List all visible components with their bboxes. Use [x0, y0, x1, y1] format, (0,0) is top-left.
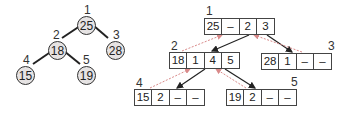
record-index-label: 1 [206, 5, 213, 17]
tree-representation-diagram: 1 25 2 18 3 28 4 15 5 19 1 [0, 0, 347, 114]
record-index-label: 3 [328, 40, 335, 52]
record-value-cell: 25 [205, 19, 222, 34]
record-value-cell: 15 [135, 90, 152, 105]
record-node-2: 18 1 4 5 [169, 52, 240, 69]
record-index-label: 2 [171, 40, 178, 52]
record-left-cell: 2 [240, 19, 257, 34]
record-right-cell: 5 [222, 53, 239, 68]
record-value-cell: 19 [227, 90, 244, 105]
record-left-cell: – [297, 54, 314, 69]
record-index-label: 4 [136, 77, 143, 89]
record-value-cell: 18 [170, 53, 187, 68]
record-parent-cell: – [222, 19, 239, 34]
record-right-cell: – [187, 90, 204, 105]
record-parent-cell: 2 [244, 90, 261, 105]
record-node-5: 19 2 – – [226, 89, 297, 106]
record-parent-cell: 1 [187, 53, 204, 68]
record-left-cell: – [262, 90, 279, 105]
record-right-cell: – [314, 54, 331, 69]
record-node-3: 28 1 – – [261, 53, 332, 70]
record-index-label: 5 [291, 76, 298, 88]
record-right-cell: – [279, 90, 296, 105]
record-left-cell: – [170, 90, 187, 105]
record-parent-cell: 2 [152, 90, 169, 105]
record-parent-cell: 1 [279, 54, 296, 69]
record-node-4: 15 2 – – [134, 89, 205, 106]
record-left-cell: 4 [205, 53, 222, 68]
record-node-1: 25 – 2 3 [204, 18, 275, 35]
record-right-cell: 3 [257, 19, 274, 34]
record-value-cell: 28 [262, 54, 279, 69]
